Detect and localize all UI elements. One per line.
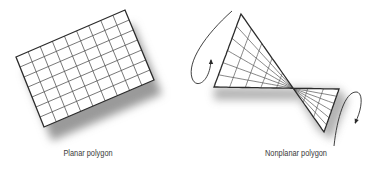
planar-polygon-caption: Planar polygon [63,148,112,158]
polygon-diagram [0,0,382,169]
diagram-stage: Planar polygon Nonplanar polygon [0,0,382,169]
nonplanar-polygon [214,14,348,140]
planar-polygon [16,10,162,141]
nonplanar-polygon-caption: Nonplanar polygon [265,148,327,158]
